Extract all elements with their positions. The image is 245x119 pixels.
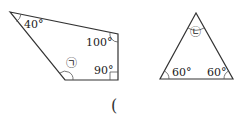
triangle: ㉡ 60° 60°: [160, 13, 233, 79]
figure-canvas: 40° 100° 90° ㉠ ㉡ 60° 60°: [0, 0, 245, 119]
angle-label-giyeok: ㉠: [66, 57, 77, 70]
angle-arc-60-left: [165, 71, 170, 79]
angle-label-100: 100°: [86, 36, 113, 49]
angle-label-nieun: ㉡: [190, 26, 201, 39]
angle-label-40: 40°: [24, 18, 44, 31]
answer-parenthesis: (: [111, 96, 117, 115]
angle-label-90: 90°: [94, 64, 114, 77]
quadrilateral: 40° 100° 90° ㉠: [10, 12, 118, 80]
angle-label-60-left: 60°: [172, 66, 192, 79]
angle-label-60-right: 60°: [207, 66, 227, 79]
